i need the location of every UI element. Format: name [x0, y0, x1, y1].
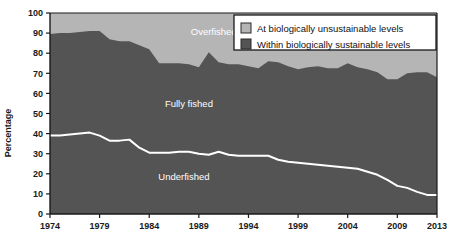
y-tick-label: 10	[33, 189, 43, 199]
y-tick-label: 90	[33, 28, 43, 38]
y-tick-label: 40	[33, 129, 43, 139]
y-tick-label: 20	[33, 169, 43, 179]
x-tick-label: 2004	[338, 221, 358, 231]
chart-legend: At biologically unsustainable levelsWith…	[234, 15, 436, 50]
legend-label: At biologically unsustainable levels	[257, 23, 404, 34]
y-tick-label: 80	[33, 48, 43, 58]
chart-container: 0102030405060708090100 19741979198419891…	[0, 0, 451, 245]
legend-item: Within biologically sustainable levels	[241, 39, 410, 50]
fully-fished-label: Fully fished	[165, 98, 213, 109]
x-tick-label: 1994	[238, 221, 258, 231]
legend-swatch	[241, 23, 251, 33]
y-axis-title: Percentage	[3, 109, 13, 158]
y-tick-label: 50	[33, 109, 43, 119]
y-tick-label: 70	[33, 69, 43, 79]
x-tick-label: 1999	[288, 221, 308, 231]
y-tick-label: 30	[33, 149, 43, 159]
legend-swatch	[241, 39, 251, 49]
y-tick-label: 100	[28, 8, 43, 18]
y-tick-label: 60	[33, 89, 43, 99]
legend-label: Within biologically sustainable levels	[257, 39, 410, 50]
fisheries-stacked-area-chart: 0102030405060708090100 19741979198419891…	[0, 0, 451, 245]
legend-item: At biologically unsustainable levels	[241, 23, 404, 34]
x-tick-label: 2009	[387, 221, 407, 231]
x-tick-label: 1979	[90, 221, 110, 231]
x-tick-label: 1984	[139, 221, 159, 231]
overfished-label: Overfished	[191, 26, 237, 37]
x-tick-label: 1974	[40, 221, 60, 231]
underfished-label: Underfished	[158, 171, 209, 182]
y-tick-label: 0	[38, 209, 43, 219]
x-tick-label: 2013	[427, 221, 447, 231]
x-tick-label: 1989	[189, 221, 209, 231]
